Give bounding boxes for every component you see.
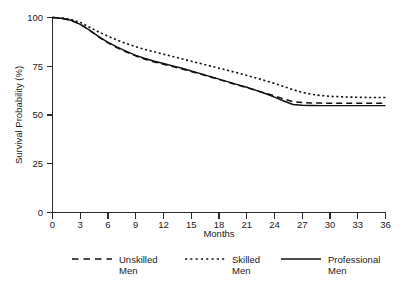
x-tick-label: 33: [352, 219, 363, 230]
series-line-professional-men: [53, 18, 386, 106]
series-line-skilled-men: [53, 18, 386, 98]
x-tick-label: 6: [105, 219, 110, 230]
x-tick-label: 3: [78, 219, 83, 230]
series-line-unskilled-men: [53, 18, 386, 104]
legend-label-line2: Men: [328, 265, 346, 276]
x-tick-label: 30: [325, 219, 336, 230]
x-axis-title: Months: [203, 228, 234, 239]
y-axis: 0255075100: [27, 12, 52, 218]
x-tick-label: 27: [297, 219, 308, 230]
legend-label-line1: Professional: [328, 254, 380, 265]
x-tick-label: 36: [380, 219, 391, 230]
x-tick-label: 15: [186, 219, 197, 230]
chart-svg: 0255075100 0369121518212427303336 Surviv…: [0, 0, 406, 281]
survival-chart-figure: 0255075100 0369121518212427303336 Surviv…: [0, 0, 406, 281]
y-tick-label: 25: [32, 158, 43, 169]
legend-label-line2: Men: [119, 265, 137, 276]
y-tick-label: 75: [32, 61, 43, 72]
y-tick-label: 0: [38, 207, 43, 218]
y-tick-label: 50: [32, 109, 43, 120]
x-tick-label: 24: [269, 219, 280, 230]
y-tick-group: 0255075100: [27, 12, 52, 218]
legend-label-line1: Skilled: [232, 254, 260, 265]
legend-label-line2: Men: [232, 265, 250, 276]
x-tick-label: 12: [158, 219, 169, 230]
legend-label-line1: Unskilled: [119, 254, 158, 265]
x-tick-label: 21: [241, 219, 252, 230]
y-tick-label: 100: [27, 12, 43, 23]
series-group: [53, 18, 386, 106]
y-axis-title: Survival Probability (%): [13, 66, 24, 164]
x-tick-label: 9: [133, 219, 138, 230]
x-tick-label: 0: [50, 219, 55, 230]
chart-legend: UnskilledMenSkilledMenProfessionalMen: [72, 254, 380, 277]
